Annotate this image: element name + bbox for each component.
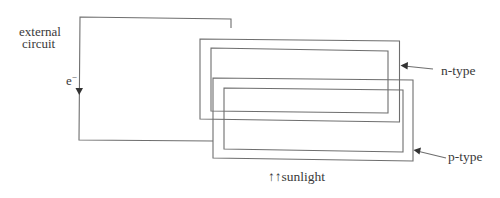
n-type-pointer-arrow-icon [401,62,434,70]
n-type-inner-rect [211,48,388,113]
p-type-pointer-arrow-icon [414,148,447,159]
electron-label: e− [66,72,77,88]
n-type-label: n-type [441,63,476,78]
n-type-layer [200,39,400,122]
n-type-outer-rect [200,39,400,122]
p-type-label: p-type [448,149,483,164]
electron-charge-superscript: − [72,72,77,82]
circuit-label: circuit [22,36,56,51]
solar-cell-diagram: external circuit e− n-type p-type ↑↑sunl… [0,0,500,198]
sunlight-label: ↑↑sunlight [268,169,325,184]
external-circuit-wire [79,17,231,141]
electron-flow-arrow-icon [76,88,84,95]
